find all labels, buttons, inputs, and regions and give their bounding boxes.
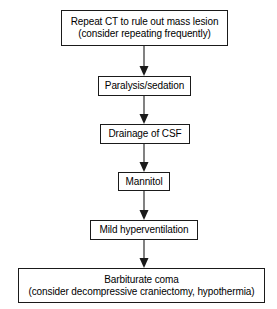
node-label-line1: Paralysis/sedation — [105, 80, 184, 92]
node-label-line1: Drainage of CSF — [109, 128, 182, 140]
flowchart-node-drainage-of-csf: Drainage of CSF — [100, 124, 190, 144]
flowchart-connectors — [0, 0, 277, 309]
node-label-line1: Mannitol — [126, 176, 163, 188]
node-label-line2: (consider decompressive craniectomy, hyp… — [28, 286, 254, 298]
flowchart-node-barbiturate-coma: Barbiturate coma (consider decompressive… — [18, 268, 265, 303]
node-label-line1: Mild hyperventilation — [99, 224, 188, 236]
node-label-line1: Repeat CT to rule out mass lesion — [71, 16, 219, 28]
flowchart-node-repeat-ct: Repeat CT to rule out mass lesion (consi… — [61, 10, 228, 46]
flowchart-diagram: Repeat CT to rule out mass lesion (consi… — [0, 0, 277, 309]
arrow-paralysis-sedation-to-drainage-of-csf — [140, 96, 149, 124]
flowchart-node-mild-hyperventilation: Mild hyperventilation — [90, 220, 198, 240]
node-label-line2: (consider repeating frequently) — [78, 28, 211, 40]
arrow-repeat-ct-to-paralysis-sedation — [140, 46, 149, 76]
node-label-line1: Barbiturate coma — [104, 274, 179, 286]
arrow-mannitol-to-mild-hyperventilation — [140, 191, 149, 220]
arrow-mild-hyperventilation-to-barbiturate-coma — [140, 240, 149, 268]
flowchart-node-paralysis-sedation: Paralysis/sedation — [98, 76, 191, 96]
flowchart-node-mannitol: Mannitol — [118, 172, 170, 191]
arrow-drainage-of-csf-to-mannitol — [140, 144, 149, 172]
